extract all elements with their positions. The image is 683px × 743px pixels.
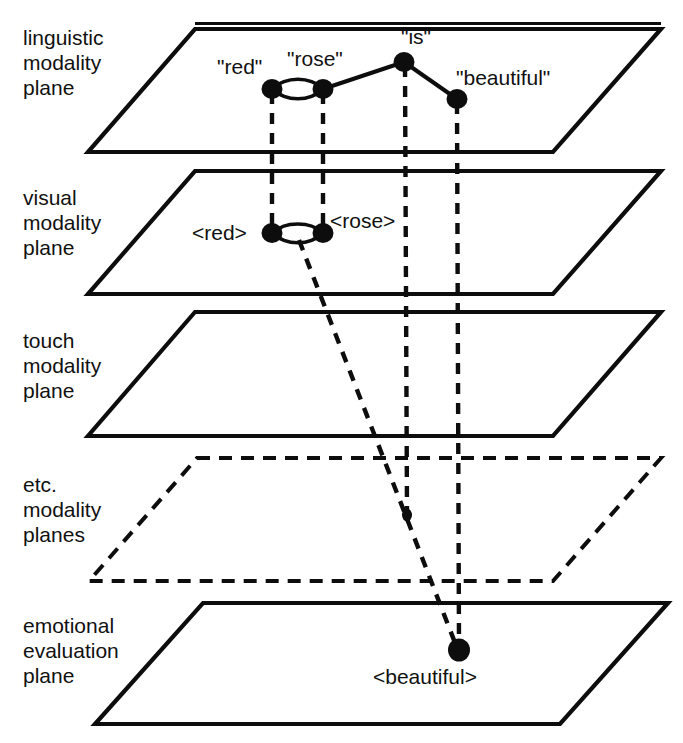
node-label-rose: "rose" <box>287 47 343 70</box>
node-rose-dot <box>313 79 334 99</box>
plane-label-linguistic-line3: plane <box>23 76 74 99</box>
node-is-dot <box>394 52 415 72</box>
visual-graph <box>262 223 334 243</box>
node-red-dot <box>262 79 283 99</box>
plane-label-touch-line2: modality <box>23 354 102 377</box>
plane-label-linguistic-line1: linguistic <box>23 26 104 49</box>
plane-label-etc-line1: etc. <box>23 473 57 496</box>
plane-label-etc-line3: planes <box>23 523 85 546</box>
plane-label-touch-line3: plane <box>23 379 74 402</box>
plane-linguistic <box>88 29 661 152</box>
plane-label-emotional-line1: emotional <box>23 614 114 637</box>
etc-graph <box>402 509 412 522</box>
plane-label-linguistic: linguistic modality plane <box>23 26 104 99</box>
node-etc-dot <box>402 509 412 522</box>
node-label-vis-rose: <rose> <box>330 209 395 232</box>
plane-touch <box>88 312 661 436</box>
node-label-red: "red" <box>217 55 262 78</box>
plane-label-visual-line1: visual <box>23 186 77 209</box>
plane-label-etc: etc. modality planes <box>23 473 102 546</box>
node-label-beautiful: "beautiful" <box>456 66 550 89</box>
plane-etc <box>89 458 661 581</box>
node-beautiful-dot <box>447 89 468 109</box>
plane-visual-outline <box>88 171 661 294</box>
plane-emotional-outline <box>95 603 668 724</box>
node-label-is: "is" <box>401 25 431 48</box>
plane-label-touch: touch modality plane <box>23 329 102 402</box>
link-is-vertical <box>405 66 407 515</box>
link-visual-to-emotional-diagonal <box>299 240 457 648</box>
node-label-emo-beautiful: <beautiful> <box>373 665 477 688</box>
plane-label-visual: visual modality plane <box>23 186 102 259</box>
plane-touch-outline <box>88 312 661 436</box>
plane-label-etc-line2: modality <box>23 498 102 521</box>
node-emo-beautiful-dot <box>448 639 470 662</box>
plane-label-emotional: emotional evaluation plane <box>23 614 119 687</box>
plane-label-visual-line3: plane <box>23 236 74 259</box>
multimodal-planes-diagram: linguistic modality plane visual modalit… <box>0 0 683 743</box>
plane-emotional <box>95 603 668 724</box>
plane-label-emotional-line3: plane <box>23 664 74 687</box>
plane-label-linguistic-line2: modality <box>23 51 102 74</box>
plane-linguistic-outline <box>88 29 661 152</box>
node-label-vis-red: <red> <box>192 221 247 244</box>
node-vis-red-dot <box>262 223 283 243</box>
emotional-graph <box>448 639 470 662</box>
plane-label-emotional-line2: evaluation <box>23 639 119 662</box>
link-beautiful-vertical <box>457 103 459 646</box>
plane-label-visual-line2: modality <box>23 211 102 234</box>
plane-etc-outline <box>89 458 661 581</box>
plane-visual <box>88 171 661 294</box>
plane-label-touch-line1: touch <box>23 329 74 352</box>
